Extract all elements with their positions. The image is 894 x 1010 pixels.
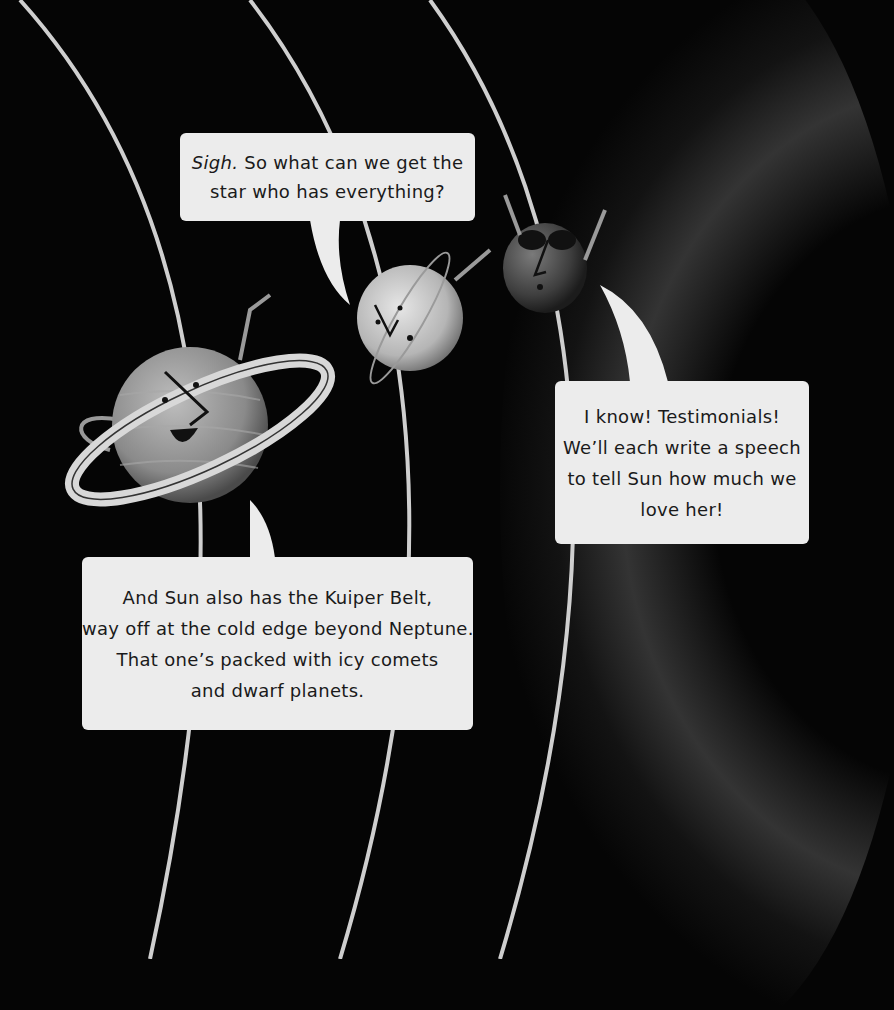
testimonials-line: to tell Sun how much we [555,463,809,494]
testimonials-line: We’ll each write a speech [555,432,809,463]
speech-bubble-kuiper-belt: And Sun also has the Kuiper Belt, way of… [82,557,473,730]
testimonials-line: I know! Testimonials! [555,401,809,432]
saturn-character [56,295,344,525]
kuiper-line: And Sun also has the Kuiper Belt, [82,582,473,613]
kuiper-line: and dwarf planets. [82,675,473,706]
sigh-line1: So what can we get the [238,152,463,173]
speech-bubble-sigh: Sigh. So what can we get the star who ha… [180,133,475,221]
neptune-character [503,195,605,313]
speech-bubble-testimonials: I know! Testimonials! We’ll each write a… [555,381,809,544]
kuiper-line: way off at the cold edge beyond Neptune. [82,613,473,644]
testimonials-line: love her! [555,494,809,525]
sigh-line2: star who has everything? [180,177,475,206]
sigh-emphasis: Sigh. [192,152,238,173]
kuiper-line: That one’s packed with icy comets [82,644,473,675]
